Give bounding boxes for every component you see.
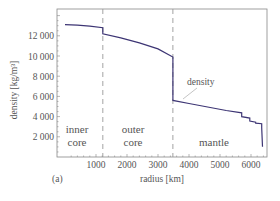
outer-core-label-line1: outer (122, 123, 145, 135)
x-tick-label: 5000 (211, 160, 230, 170)
mantle-label: mantle (199, 136, 229, 148)
outer-core-label-line2: core (124, 136, 143, 148)
x-tick-label: 1000 (87, 160, 106, 170)
density-chart: 100020003000400050006000 2 0004 0006 000… (0, 0, 280, 201)
x-axis-title: radius [km] (140, 174, 184, 184)
plot-border (57, 9, 267, 157)
y-tick-label: 4 000 (33, 112, 55, 122)
x-tick-label: 4000 (180, 160, 199, 170)
y-tick-label: 2 000 (33, 132, 55, 142)
plot-frame (57, 9, 267, 157)
y-tick-label: 6 000 (33, 92, 55, 102)
region-labels: inner core outer core mantle (66, 123, 229, 148)
density-curve (65, 25, 263, 147)
inner-core-label-line2: core (68, 136, 87, 148)
density-line (65, 25, 263, 147)
x-tick-label: 2000 (118, 160, 137, 170)
annotation-leader-line (183, 88, 197, 99)
y-tick-label: 10 000 (28, 52, 54, 62)
series-annotation: density (183, 77, 215, 99)
panel-label: (a) (52, 174, 63, 185)
y-axis-ticks: 2 0004 0006 0008 00010 00012 000 (28, 16, 60, 152)
y-tick-label: 12 000 (28, 31, 54, 41)
x-axis-ticks: 100020003000400050006000 (71, 154, 263, 170)
density-annotation: density (187, 77, 215, 87)
x-tick-label: 3000 (149, 160, 168, 170)
x-tick-label: 6000 (242, 160, 261, 170)
y-axis-title: density [kg/m³] (9, 61, 19, 120)
y-tick-label: 8 000 (33, 72, 55, 82)
inner-core-label-line1: inner (66, 123, 89, 135)
